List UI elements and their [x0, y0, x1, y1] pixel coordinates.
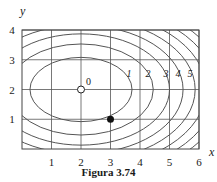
- contour-level-label: 1: [127, 68, 132, 79]
- y-axis-label: y: [19, 4, 26, 18]
- contour-level-label: 2: [146, 68, 151, 79]
- contour-plot: 123456 1234 12345 x y 0: [0, 0, 217, 182]
- contour-level-label: 5: [188, 68, 193, 79]
- y-tick-labels: 1234: [9, 24, 15, 125]
- contour-lines: [0, 0, 217, 181]
- figure-caption: Figura 3.74: [0, 166, 217, 178]
- y-tick-label: 1: [9, 113, 15, 125]
- y-tick-label: 3: [9, 54, 15, 66]
- contour-level-label: 3: [163, 68, 169, 79]
- highlight-point-filled-circle: [107, 116, 114, 123]
- x-axis-label: x: [208, 145, 215, 159]
- center-marker-open-circle: [78, 86, 85, 93]
- contour-level-label: 4: [176, 68, 181, 79]
- contour-line: [0, 0, 217, 181]
- y-tick-label: 4: [9, 24, 15, 36]
- center-level-label: 0: [86, 76, 91, 87]
- y-tick-label: 2: [9, 84, 15, 96]
- contour-figure: 123456 1234 12345 x y 0 Figura 3.74: [0, 0, 217, 182]
- contour-level-labels: 12345: [127, 68, 193, 79]
